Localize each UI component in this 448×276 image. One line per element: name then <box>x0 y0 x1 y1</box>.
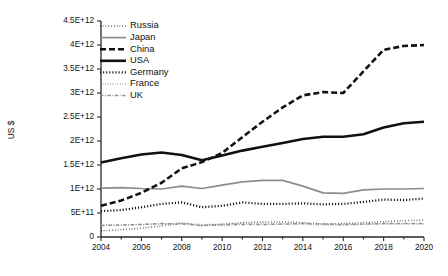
legend-label-japan: Japan <box>130 31 156 42</box>
y-tick-label: 1E+12 <box>70 184 94 193</box>
series-line-germany <box>101 199 424 211</box>
y-axis-title-text: US $ <box>6 120 16 139</box>
x-tick-label: 2012 <box>253 243 272 252</box>
x-tick-label: 2016 <box>334 243 353 252</box>
legend-label-uk: UK <box>130 89 144 100</box>
x-tick-label: 2020 <box>415 243 434 252</box>
y-tick-label: 2.5E+12 <box>63 112 94 121</box>
legend-label-russia: Russia <box>130 19 159 30</box>
legend-label-france: France <box>130 77 159 88</box>
legend-label-china: China <box>130 43 155 54</box>
x-tick-label: 2018 <box>375 243 394 252</box>
chart-container: US $ 05E+111E+121.5E+122E+122.5E+123E+12… <box>0 0 448 276</box>
line-chart: US $ 05E+111E+121.5E+122E+122.5E+123E+12… <box>0 0 448 276</box>
y-axis-ticks: 05E+111E+121.5E+122E+122.5E+123E+123.5E+… <box>63 16 101 241</box>
x-axis-ticks: 200420062008201020122014201620182020 <box>92 237 434 252</box>
legend-label-germany: Germany <box>130 66 169 77</box>
series-line-usa <box>101 122 424 163</box>
y-axis-title: US $ <box>6 120 16 139</box>
x-tick-label: 2014 <box>294 243 313 252</box>
series-line-japan <box>101 180 424 193</box>
chart-legend: RussiaJapanChinaUSAGermanyFranceUK <box>100 19 169 100</box>
series-line-russia <box>101 220 424 231</box>
x-tick-label: 2006 <box>132 243 151 252</box>
y-tick-label: 3.5E+12 <box>63 64 94 73</box>
y-tick-label: 1.5E+12 <box>63 160 94 169</box>
y-tick-label: 4.5E+12 <box>63 16 94 25</box>
x-tick-label: 2008 <box>173 243 192 252</box>
y-tick-label: 2E+12 <box>70 136 94 145</box>
y-tick-label: 0 <box>89 232 94 241</box>
legend-label-usa: USA <box>130 54 150 65</box>
x-tick-label: 2010 <box>213 243 232 252</box>
x-tick-label: 2004 <box>92 243 111 252</box>
y-tick-label: 4E+12 <box>70 40 94 49</box>
y-tick-label: 5E+11 <box>71 208 95 217</box>
series-line-uk <box>101 224 424 226</box>
y-tick-label: 3E+12 <box>70 88 94 97</box>
